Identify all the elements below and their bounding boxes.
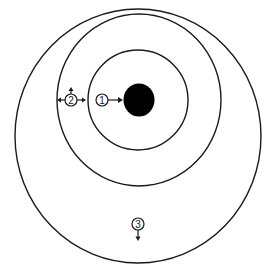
marker-1-label: 1 — [99, 95, 105, 106]
arrow-up-icon — [69, 87, 74, 91]
arrow-right-icon — [118, 97, 123, 103]
marker-1: 1 — [96, 94, 123, 106]
concentric-diagram: 1 2 3 — [0, 0, 271, 277]
core-dot — [124, 84, 155, 117]
marker-3-label: 3 — [135, 219, 141, 230]
marker-2-label: 2 — [68, 95, 74, 106]
arrow-right-icon — [82, 98, 86, 103]
marker-3: 3 — [132, 218, 144, 241]
arrow-down-icon — [136, 237, 141, 242]
marker-2: 2 — [57, 87, 86, 106]
